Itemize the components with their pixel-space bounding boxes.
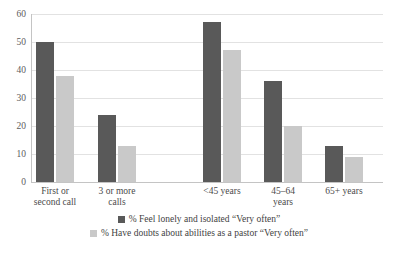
bar (223, 50, 241, 182)
y-axis-tick-label: 20 (4, 122, 26, 131)
x-axis-tick-label: 65+ years (304, 186, 384, 197)
legend-item[interactable]: % Have doubts about abilities as a pasto… (0, 226, 398, 240)
y-axis-tick-label: 10 (4, 150, 26, 159)
x-axis-tick-label: 3 or morecalls (77, 186, 157, 208)
legend-item-inner: % Have doubts about abilities as a pasto… (90, 228, 308, 239)
x-axis-tick-label-line: 65+ years (304, 186, 384, 197)
legend-item[interactable]: % Feel lonely and isolated “Very often” (0, 212, 398, 226)
y-axis-tick-label: 60 (4, 10, 26, 19)
x-axis-tick-label-line: years (243, 197, 323, 208)
legend-swatch-icon (90, 230, 97, 237)
bar (203, 22, 221, 182)
bar (98, 115, 116, 182)
legend-label: % Have doubts about abilities as a pasto… (101, 228, 308, 239)
x-axis-tick-label-line: calls (77, 197, 157, 208)
legend-swatch-icon (118, 216, 125, 223)
bar (36, 42, 54, 182)
legend-item-inner: % Feel lonely and isolated “Very often” (118, 214, 280, 225)
y-axis-tick-label: 40 (4, 66, 26, 75)
x-axis-line (31, 182, 383, 183)
bars-layer (31, 14, 383, 182)
y-axis-tick-label: 30 (4, 94, 26, 103)
legend-label: % Feel lonely and isolated “Very often” (129, 214, 280, 225)
bar (56, 76, 74, 182)
bar (118, 146, 136, 182)
bar (345, 157, 363, 182)
bar (284, 126, 302, 182)
bar (325, 146, 343, 182)
chart-legend: % Feel lonely and isolated “Very often”%… (0, 212, 398, 240)
y-axis-tick-label: 50 (4, 38, 26, 47)
bar (264, 81, 282, 182)
bar-chart: 0102030405060 First orsecond call3 or mo… (0, 0, 398, 253)
x-axis-tick-label-line: 3 or more (77, 186, 157, 197)
